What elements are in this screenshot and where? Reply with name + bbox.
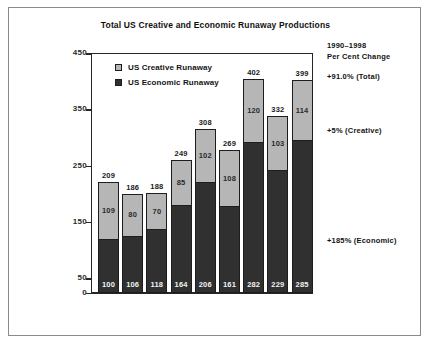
- bar-segment-creative-value: 102: [199, 152, 212, 160]
- y-tick-label-350: 350: [57, 104, 87, 113]
- bar-segment-economic[interactable]: 206: [196, 183, 215, 292]
- bar-total-label: 402: [239, 68, 268, 77]
- bar-segment-creative[interactable]: 102: [196, 130, 215, 184]
- bar-segment-creative-value: 114: [296, 107, 309, 115]
- bar-segment-creative[interactable]: 114: [293, 81, 312, 141]
- bar-segment-creative[interactable]: 108: [220, 151, 239, 208]
- bar-segment-creative[interactable]: 85: [172, 161, 191, 206]
- bar-stack[interactable]: 103229: [267, 116, 288, 293]
- bar-total-label: 209: [94, 171, 123, 180]
- bar-segment-creative[interactable]: 120: [244, 80, 263, 143]
- annotations-panel: 1990–1998 Per Cent Change +91.0% (Total)…: [327, 41, 422, 63]
- y-tick-label-150: 150: [57, 217, 87, 226]
- bar-segment-economic-value: 206: [199, 281, 212, 289]
- bar-segment-economic[interactable]: 282: [244, 143, 263, 292]
- bar-total-label: 188: [142, 182, 171, 191]
- bar-segment-economic-value: 282: [247, 281, 260, 289]
- bar-segment-economic-value: 164: [175, 281, 188, 289]
- bar-stack[interactable]: 70118: [146, 193, 167, 293]
- annotation-heading-metric: Per Cent Change: [327, 52, 422, 63]
- bar-segment-economic[interactable]: 100: [99, 240, 118, 292]
- bar-stack[interactable]: 85164: [171, 160, 192, 293]
- bar-segment-creative[interactable]: 80: [123, 195, 142, 237]
- y-tick-label-250: 250: [57, 161, 87, 170]
- bar-segment-economic[interactable]: 106: [123, 237, 142, 292]
- bar-segment-creative-value: 85: [177, 179, 186, 187]
- bar-segment-economic-value: 118: [151, 281, 164, 289]
- annotation-heading-period: 1990–1998: [327, 41, 422, 52]
- bar-segment-economic[interactable]: 164: [172, 206, 191, 292]
- annotation-creative-change: +5% (Creative): [327, 126, 382, 135]
- y-tick-label-50: 50: [57, 273, 87, 282]
- bar-segment-creative-value: 120: [247, 107, 260, 115]
- bar-segment-economic-value: 100: [102, 281, 115, 289]
- bar-segment-economic-value: 161: [223, 281, 236, 289]
- bar-segment-creative[interactable]: 109: [99, 183, 118, 240]
- y-tick-label-0: 0: [57, 288, 87, 297]
- bar-stack[interactable]: 109100: [98, 182, 119, 293]
- bar-stack[interactable]: 120282: [243, 79, 264, 293]
- bar-segment-creative-value: 108: [223, 175, 236, 183]
- bar-segment-economic-value: 106: [126, 281, 139, 289]
- bar-segment-creative[interactable]: 70: [147, 194, 166, 231]
- annotation-economic-change: +185% (Economic): [327, 236, 397, 245]
- bar-stack[interactable]: 80106: [122, 194, 143, 293]
- bar-segment-economic[interactable]: 285: [293, 141, 312, 292]
- bar-total-label: 399: [288, 69, 317, 78]
- bar-stack[interactable]: 102206: [195, 129, 216, 293]
- chart-card: Total US Creative and Economic Runaway P…: [8, 7, 421, 336]
- bar-segment-economic[interactable]: 118: [147, 230, 166, 292]
- bar-segment-economic[interactable]: 229: [268, 171, 287, 292]
- bar-segment-creative-value: 70: [153, 208, 162, 216]
- bar-segment-creative-value: 109: [102, 207, 115, 215]
- y-tick-label-450: 450: [57, 48, 87, 57]
- bar-segment-economic-value: 229: [271, 281, 284, 289]
- bar-series-container: 1091002091990801061861991701181881992851…: [91, 53, 313, 293]
- bar-total-label: 249: [167, 149, 196, 158]
- plot-area: 450 350 250 150 50 0 US Creative Runaway…: [91, 53, 313, 293]
- bar-total-label: 332: [263, 105, 292, 114]
- bar-total-label: 308: [191, 118, 220, 127]
- bar-segment-economic-value: 285: [296, 281, 309, 289]
- annotation-total-change: +91.0% (Total): [327, 72, 380, 81]
- bar-stack[interactable]: 108161: [219, 150, 240, 293]
- bar-segment-economic[interactable]: 161: [220, 207, 239, 292]
- bar-segment-creative-value: 103: [271, 140, 284, 148]
- bar-total-label: 269: [215, 139, 244, 148]
- bar-stack[interactable]: 114285: [292, 80, 313, 293]
- bar-segment-creative-value: 80: [128, 211, 137, 219]
- chart-title: Total US Creative and Economic Runaway P…: [9, 20, 422, 30]
- bar-segment-creative[interactable]: 103: [268, 117, 287, 171]
